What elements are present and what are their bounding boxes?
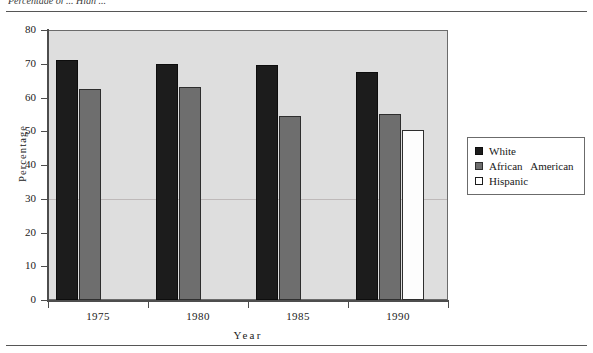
y-tick-label: 0 <box>8 294 36 305</box>
bar-african-american-1985 <box>279 116 301 300</box>
figure: Percentage of ... High ... 0102030405060… <box>0 0 593 353</box>
y-tick-label: 10 <box>8 260 36 271</box>
bar-white-1985 <box>256 65 278 300</box>
y-tick-label: 20 <box>8 227 36 238</box>
x-tick-mark <box>148 301 149 308</box>
x-tick-mark <box>248 301 249 308</box>
bar-white-1990 <box>356 72 378 300</box>
legend-item: African American <box>475 158 578 173</box>
footer-rule <box>6 345 587 346</box>
bar-african-american-1990 <box>379 114 401 300</box>
bar-african-american-1975 <box>79 89 101 300</box>
x-tick-mark <box>348 301 349 308</box>
x-tick-label: 1990 <box>363 310 433 322</box>
gray-filled-swatch-icon <box>475 162 483 170</box>
chart-legend: WhiteAfrican AmericanHispanic <box>467 137 585 195</box>
legend-item: Hispanic <box>475 173 578 188</box>
bar-white-1980 <box>156 64 178 300</box>
x-axis-title: Year <box>178 329 318 341</box>
legend-item-label: African American <box>489 160 574 172</box>
y-tick-label: 70 <box>8 58 36 69</box>
x-tick-label: 1980 <box>163 310 233 322</box>
legend-item-label: White <box>489 145 516 157</box>
x-tick-mark <box>48 301 49 308</box>
black-filled-swatch-icon <box>475 147 483 155</box>
header-rule <box>6 11 587 12</box>
x-tick-label: 1985 <box>263 310 333 322</box>
y-axis-title: Percentage <box>17 99 28 209</box>
y-tick-label: 80 <box>8 24 36 35</box>
bar-african-american-1980 <box>179 87 201 300</box>
x-tick-mark <box>448 301 449 308</box>
legend-item-label: Hispanic <box>489 175 528 187</box>
bars-layer <box>48 30 448 300</box>
legend-item: White <box>475 143 578 158</box>
white-hollow-swatch-icon <box>475 177 483 185</box>
x-tick-label: 1975 <box>63 310 133 322</box>
figure-caption: Percentage of ... High ... <box>8 0 288 4</box>
bar-hispanic-1990 <box>402 130 424 300</box>
bar-white-1975 <box>56 60 78 300</box>
